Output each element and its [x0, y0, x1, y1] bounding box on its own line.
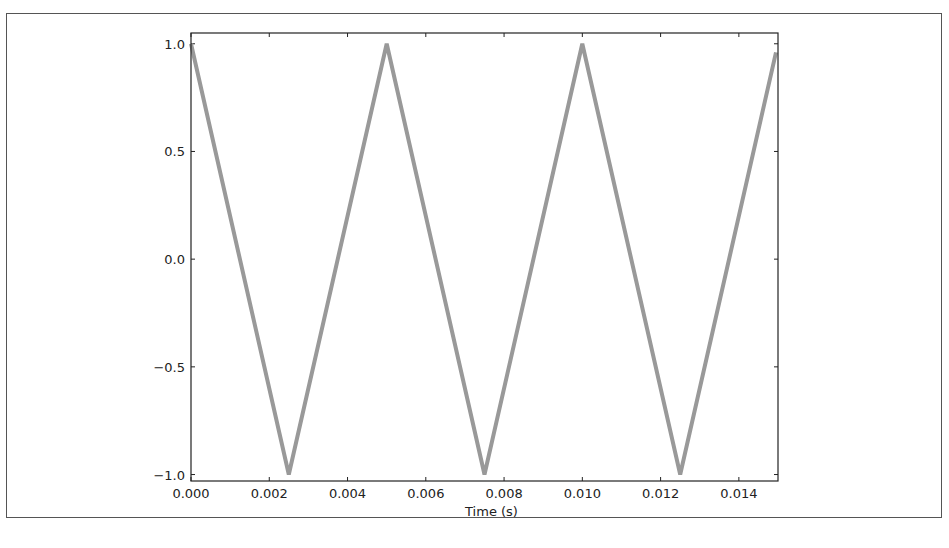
x-axis-label: Time (s) — [464, 504, 518, 519]
x-tick-label: 0.014 — [720, 486, 757, 501]
x-tick-label: 0.010 — [564, 486, 601, 501]
y-tick-label: −1.0 — [153, 468, 185, 483]
y-tick-label: −0.5 — [153, 360, 185, 375]
line-chart: 1.00.50.0−0.5−1.0 0.0000.0020.0040.0060.… — [0, 0, 949, 548]
x-tick-label: 0.002 — [251, 486, 288, 501]
y-axis: 1.00.50.0−0.5−1.0 — [153, 37, 778, 483]
x-tick-label: 0.004 — [329, 486, 366, 501]
y-tick-label: 1.0 — [164, 37, 185, 52]
x-tick-label: 0.000 — [172, 486, 209, 501]
x-tick-label: 0.006 — [407, 486, 444, 501]
x-tick-label: 0.012 — [642, 486, 679, 501]
series-line — [191, 44, 776, 475]
y-tick-label: 0.5 — [164, 144, 185, 159]
plot-area — [191, 33, 778, 481]
x-tick-label: 0.008 — [485, 486, 522, 501]
y-tick-label: 0.0 — [164, 252, 185, 267]
